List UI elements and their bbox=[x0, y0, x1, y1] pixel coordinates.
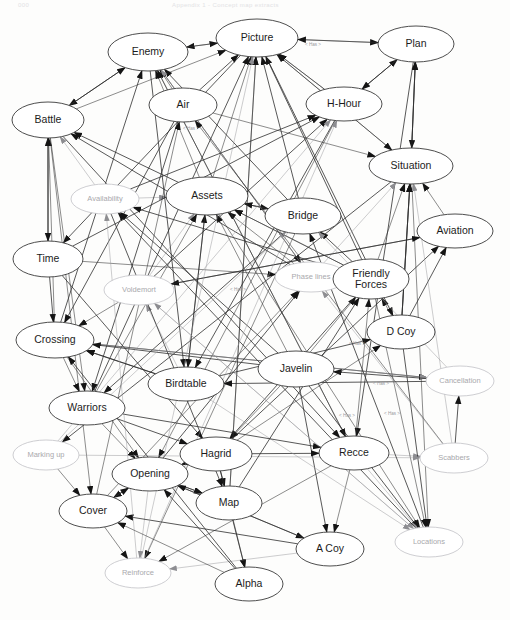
graph-node-availability[interactable]: Availability bbox=[71, 184, 139, 214]
concept-map-graph: < Has >< Has >< Has >< Has >< Has >< Has… bbox=[0, 0, 510, 620]
graph-edge bbox=[362, 60, 397, 89]
graph-edge bbox=[244, 204, 268, 209]
graph-node-cover[interactable]: Cover bbox=[59, 494, 127, 528]
node-label: Air bbox=[177, 98, 190, 110]
graph-edge bbox=[402, 184, 410, 315]
node-label: Cover bbox=[79, 504, 108, 516]
graph-node-bridge[interactable]: Bridge bbox=[265, 198, 341, 234]
edge-label: < Has > bbox=[384, 411, 400, 416]
graph-edge bbox=[156, 71, 200, 178]
node-label: Warriors bbox=[67, 401, 106, 413]
graph-node-situation[interactable]: Situation bbox=[369, 148, 453, 184]
graph-edge bbox=[278, 54, 324, 89]
graph-node-battle[interactable]: Battle bbox=[12, 102, 84, 138]
graph-node-javelin[interactable]: Javelin bbox=[258, 351, 334, 387]
graph-edge bbox=[231, 385, 281, 438]
node-label: Situation bbox=[391, 159, 432, 171]
node-label: Phase lines bbox=[292, 272, 331, 281]
graph-node-warriors[interactable]: Warriors bbox=[49, 391, 125, 425]
graph-edge bbox=[367, 469, 417, 528]
graph-edge bbox=[146, 305, 177, 368]
graph-node-cancellation[interactable]: Cancellation bbox=[426, 366, 494, 396]
graph-edge bbox=[187, 43, 218, 47]
graph-edge bbox=[199, 55, 238, 90]
node-label: FriendlyForces bbox=[352, 267, 390, 290]
graph-node-hhour[interactable]: H-Hour bbox=[306, 87, 382, 121]
node-label: Crossing bbox=[34, 333, 76, 345]
graph-node-recce[interactable]: Recce bbox=[319, 436, 389, 470]
edge-label: < Has > bbox=[230, 287, 246, 292]
node-label: Recce bbox=[339, 446, 369, 458]
graph-node-aviation[interactable]: Aviation bbox=[417, 214, 493, 248]
graph-node-birdtable[interactable]: Birdtable bbox=[148, 367, 224, 401]
graph-node-plan[interactable]: Plan bbox=[378, 26, 454, 62]
graph-node-opening[interactable]: Opening bbox=[112, 457, 188, 491]
graph-edge bbox=[58, 469, 80, 495]
graph-edge bbox=[79, 302, 119, 326]
graph-node-crossing[interactable]: Crossing bbox=[16, 322, 94, 358]
graph-node-hagrid[interactable]: Hagrid bbox=[180, 437, 252, 471]
node-label: Picture bbox=[241, 31, 274, 43]
graph-edge bbox=[139, 197, 166, 198]
graph-node-locations[interactable]: Locations bbox=[395, 527, 463, 557]
graph-edge bbox=[179, 485, 202, 493]
node-label: Map bbox=[219, 496, 240, 508]
node-label: Aviation bbox=[436, 224, 473, 236]
graph-edge bbox=[130, 115, 315, 189]
node-label: A Coy bbox=[316, 542, 345, 554]
node-label: Cancellation bbox=[439, 376, 480, 385]
graph-node-air[interactable]: Air bbox=[149, 88, 217, 122]
node-label: Bridge bbox=[288, 209, 319, 221]
graph-edge bbox=[140, 491, 148, 558]
graph-edge bbox=[87, 351, 156, 374]
graph-edge bbox=[423, 183, 444, 214]
node-label: Scabbers bbox=[438, 453, 470, 462]
figure-page: 000 Appendix 1 - Concept map extracts < … bbox=[0, 0, 510, 620]
graph-edge bbox=[182, 463, 186, 464]
graph-node-scabbers[interactable]: Scabbers bbox=[420, 443, 488, 473]
graph-node-markingup[interactable]: Marking up bbox=[13, 440, 79, 470]
node-label: D Coy bbox=[386, 325, 416, 337]
graph-edge bbox=[213, 57, 251, 177]
edge-label: < Has > bbox=[183, 126, 199, 131]
node-label: Birdtable bbox=[165, 377, 207, 389]
edge-label: < Has > bbox=[373, 381, 389, 386]
graph-edge bbox=[69, 68, 125, 106]
edge-label: < Has > bbox=[349, 341, 365, 346]
graph-node-friendlyforces[interactable]: FriendlyForces bbox=[333, 259, 409, 299]
graph-edge bbox=[412, 62, 416, 148]
node-label: Locations bbox=[413, 537, 445, 546]
node-label: Voldemort bbox=[122, 285, 157, 294]
node-label: Reinforce bbox=[122, 568, 154, 577]
graph-edge bbox=[334, 470, 350, 532]
graph-node-map[interactable]: Map bbox=[196, 486, 262, 520]
graph-edge bbox=[455, 396, 459, 443]
graph-node-time[interactable]: Time bbox=[13, 241, 83, 277]
graph-edge bbox=[102, 424, 135, 459]
node-label: Opening bbox=[130, 467, 170, 479]
graph-edge bbox=[50, 277, 54, 322]
edge-label: < Has > bbox=[305, 42, 321, 47]
node-label: Assets bbox=[191, 189, 223, 201]
node-label: Javelin bbox=[280, 362, 313, 374]
graph-node-acoy[interactable]: A Coy bbox=[296, 532, 364, 566]
graph-edge bbox=[389, 455, 420, 457]
graph-edge bbox=[105, 527, 128, 559]
graph-edge bbox=[382, 298, 392, 315]
graph-edge bbox=[60, 137, 94, 185]
node-label: H-Hour bbox=[327, 97, 361, 109]
graph-edge bbox=[74, 132, 179, 182]
edge-label: < Has > bbox=[339, 413, 355, 418]
graph-node-dcoy[interactable]: D Coy bbox=[367, 315, 435, 349]
node-label: Hagrid bbox=[201, 447, 232, 459]
graph-edge bbox=[125, 516, 297, 544]
node-label: Battle bbox=[35, 113, 62, 125]
graph-node-enemy[interactable]: Enemy bbox=[108, 33, 188, 71]
graph-node-alpha[interactable]: Alpha bbox=[215, 567, 283, 601]
graph-node-voldemort[interactable]: Voldemort bbox=[104, 275, 174, 305]
graph-node-assets[interactable]: Assets bbox=[166, 177, 248, 215]
graph-node-picture[interactable]: Picture bbox=[216, 19, 298, 57]
graph-node-reinforce[interactable]: Reinforce bbox=[105, 558, 171, 588]
node-label: Availability bbox=[87, 194, 123, 203]
node-label: Plan bbox=[405, 37, 426, 49]
